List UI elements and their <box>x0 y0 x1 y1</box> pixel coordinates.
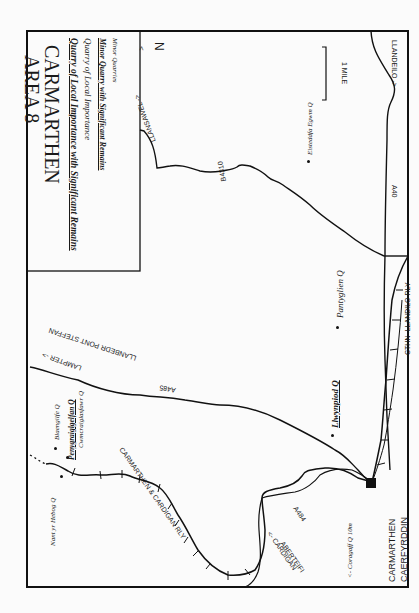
carmarthen-town-block <box>366 478 376 488</box>
quarry-marker-blaengilfe <box>54 447 57 450</box>
north-arrow-icon: < <box>137 46 145 51</box>
road-b4310 <box>140 130 384 256</box>
north-arrow-label: N <box>153 42 165 51</box>
direction-llandeilo: LLANDEILO -> <box>391 40 398 87</box>
legend-item-local-significant: Quarry of Local Importance with Signific… <box>69 38 79 251</box>
quarry-eisteddfa-egwm: Eisteddfa Egwm Q <box>307 103 314 156</box>
quarry-marker-eisteddfa <box>307 160 310 163</box>
legend-title-line2: AREA 8 <box>22 55 42 123</box>
quarry-blaengilfe: Blaengilfe Q <box>54 404 61 440</box>
railway-label-carmarthen-llandilo: CTHN -LLANDILO RLY <box>404 282 411 355</box>
road-label-a40: A40 <box>391 185 398 197</box>
quarry-pantyglien: Pantyglien Q <box>336 270 345 318</box>
quarry-penygraiglgelfan: Penygraiglgelfan Q <box>68 399 76 460</box>
railway-carmarthen-cardigan <box>46 464 372 576</box>
railway-dotted <box>30 455 46 464</box>
scale-bar <box>322 47 326 100</box>
quarry-marker-cwmcraiglasfawr <box>66 456 69 459</box>
direction-coragaff: <- Coragaff Q 10m <box>347 523 354 578</box>
scale-label: 1 MILE <box>341 62 348 84</box>
railway-llandilo-branch <box>372 300 402 482</box>
town-caerfyrddin: CAERFYRDDIN <box>400 517 409 582</box>
legend-item-minor: Minor Quarries <box>111 38 118 83</box>
legend-item-local: Quarry of Local Importance <box>83 38 92 140</box>
quarry-marker-nant-yr-hebog <box>60 475 63 478</box>
town-carmarthen: CARMARTHEN <box>388 519 397 582</box>
quarry-marker-pantyglien <box>336 326 339 329</box>
quarry-nant-yr-hebog: Nant yr Hebog Q <box>50 498 57 546</box>
legend-title-line1: CARMARTHEN <box>42 45 62 184</box>
quarry-marker-llwynpiod <box>331 434 334 437</box>
legend-item-minor-significant: Minor Quarry with Significant Remains <box>98 38 106 170</box>
railway-ticks-cardigan <box>72 468 250 580</box>
quarry-llwynpiod: Llwynpiod Q <box>331 380 340 428</box>
quarry-cwmcraiglasfawr: Cwmcraiglasfawr Q <box>78 391 85 448</box>
quarry-map: CARMARTHEN AREA 8 Quarry of Local Import… <box>0 0 419 613</box>
